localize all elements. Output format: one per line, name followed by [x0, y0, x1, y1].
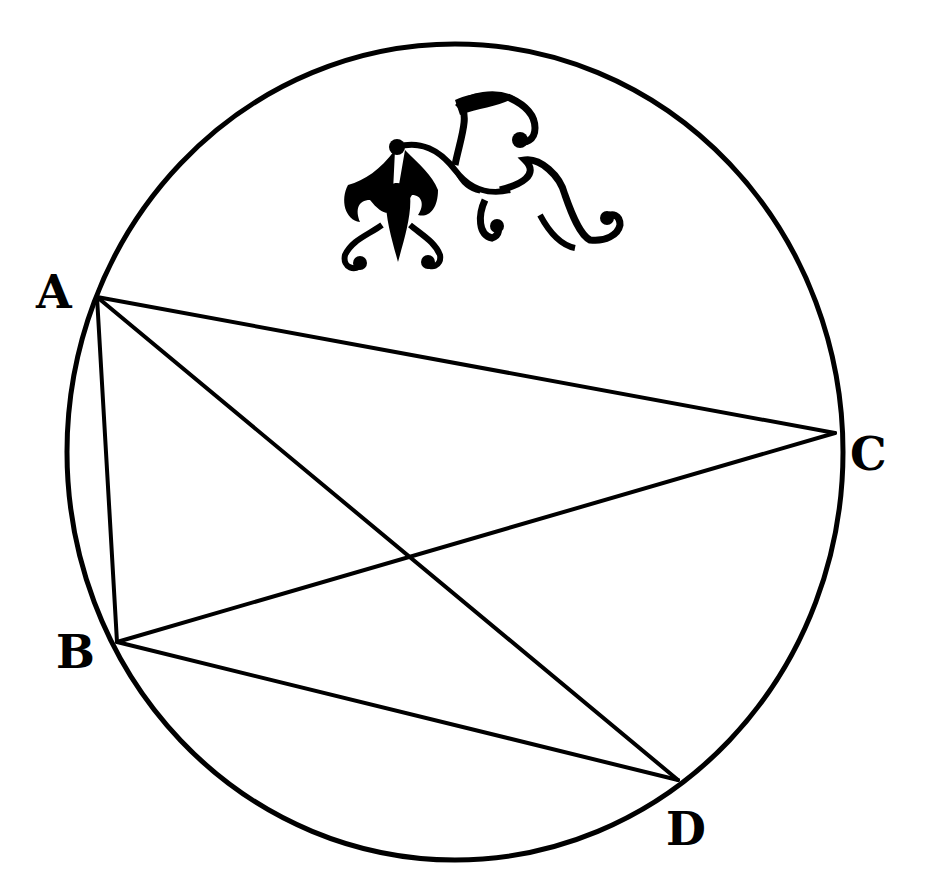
label-D: D: [666, 802, 706, 856]
label-C: C: [850, 427, 887, 481]
label-A: A: [35, 265, 73, 319]
floral-ornament-icon: [344, 93, 620, 270]
segment-AC: [97, 297, 835, 433]
label-B: B: [56, 625, 95, 679]
geometry-diagram: A B C D: [0, 0, 935, 893]
segment-AB: [97, 297, 117, 642]
chords: [97, 297, 835, 780]
